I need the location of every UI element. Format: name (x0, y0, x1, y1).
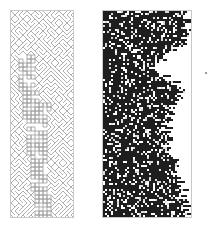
dense-random-pattern-image (103, 11, 191, 217)
dense-random-pattern-panel (102, 10, 192, 218)
lattice-pattern-panel (10, 10, 74, 218)
stray-mark (205, 72, 207, 74)
lattice-pattern-image (11, 11, 73, 217)
